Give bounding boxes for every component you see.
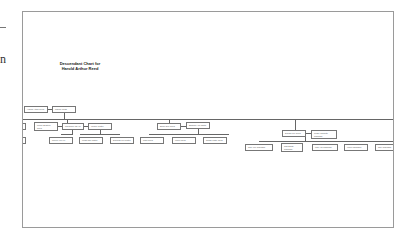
child-box[interactable]: Tony Robinson [375, 144, 394, 151]
spouse-box-gen2[interactable]: Wesley Gutter [88, 123, 112, 130]
spouse-box-gen2[interactable]: Raymond Ass Hill [62, 123, 84, 130]
person-box-gen2[interactable]: Donald Lee Reed [282, 130, 306, 137]
person-box-root[interactable]: Harold Arthur Reed [24, 106, 48, 113]
edge-text-fragment: n [0, 52, 6, 67]
person-box-gen2[interactable]: Bruce Dee Reed [157, 123, 181, 130]
sibling-bar [61, 134, 73, 135]
child-box[interactable]: Karen Robinson [344, 144, 368, 151]
child-box[interactable]: Lisa Ann Robinson [312, 144, 338, 151]
spouse-box-root[interactable]: Marion Webb [52, 106, 76, 113]
sibling-bar [149, 134, 229, 135]
title-line-2: Harold Arthur Reed [50, 66, 110, 71]
person-box-gen2[interactable]: Lucille Beatrice Reed [34, 122, 58, 131]
child-box[interactable]: Carla Beth Robinson [281, 143, 303, 152]
child-box[interactable]: Melvin Ann Hill [49, 137, 73, 144]
descent-line [295, 119, 296, 130]
person-box-cutoff[interactable] [22, 123, 26, 130]
edge-dash [0, 27, 6, 28]
child-box[interactable]: Deborah Lee Gutter [110, 137, 134, 144]
sibling-bar [80, 134, 120, 135]
person-box-cutoff[interactable] [22, 137, 26, 144]
child-box[interactable]: Susan Kathy Reed [203, 137, 227, 144]
spouse-box-gen2[interactable]: Barbara Ann Martin [186, 122, 210, 129]
child-box[interactable]: Linda Mae Gutter [79, 137, 103, 144]
spouse-box-gen2[interactable]: Peggy Jeanette Robinson [311, 130, 337, 139]
chart-page: Descendant Chart for Harold Arthur Reed … [22, 11, 394, 228]
chart-title: Descendant Chart for Harold Arthur Reed [50, 61, 110, 71]
sibling-bar [259, 141, 394, 142]
generation-bar [23, 119, 394, 120]
child-box[interactable]: Gary Lee Robinson [245, 144, 273, 151]
child-box[interactable]: Mark Reed [140, 137, 164, 144]
child-box[interactable]: Karen Reed [172, 137, 196, 144]
